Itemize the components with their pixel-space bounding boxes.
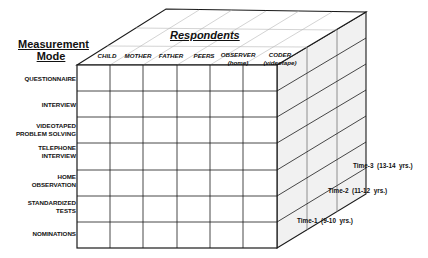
time-label-3: Time-3 (13-14 yrs.) (353, 162, 413, 169)
mode-label-videotaped-problem-solving: VIDEOTAPED PROBLEM SOLVING (16, 122, 76, 138)
mode-label-standardized-tests: STANDARDIZED TESTS (28, 199, 76, 215)
respondent-label-coder: CODER (videotape) (257, 51, 303, 66)
mode-label-telephone-interview: TELEPHONE INTERVIEW (38, 144, 76, 160)
respondent-label-child: CHILD (90, 52, 124, 60)
respondent-label-peers: PEERS (187, 52, 221, 60)
respondent-label-observer: OBSERVER (home) (218, 51, 258, 66)
respondent-label-mother: MOTHER (121, 52, 155, 60)
measurement-mode-title: Measurement Mode (18, 38, 84, 62)
mode-label-questionnaire: QUESTIONNAIRE (24, 75, 76, 83)
respondent-label-father: FATHER (154, 52, 188, 60)
measurement-mode-title-line1: Measurement (18, 38, 84, 50)
time-label-1: Time-1 (9-10 yrs.) (297, 217, 353, 224)
respondents-title: Respondents (170, 29, 240, 41)
mode-label-home-observation: HOME OBSERVATION (32, 173, 76, 189)
mode-label-nominations: NOMINATIONS (32, 230, 76, 238)
time-label-2: Time-2 (11-12 yrs.) (328, 187, 387, 194)
mode-label-interview: INTERVIEW (42, 101, 76, 109)
measurement-mode-title-line2: Mode (18, 50, 84, 62)
